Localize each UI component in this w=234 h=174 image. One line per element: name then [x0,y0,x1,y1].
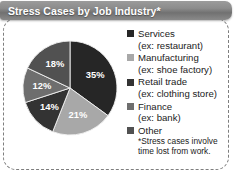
legend-sublabel-manufacturing: (ex: shoe factory) [138,64,231,76]
pie-slice-value-other: 18% [46,58,65,69]
legend-swatch-icon-services [127,30,134,37]
pie-slice-value-retail-trade: 14% [40,101,59,112]
legend-sublabel-services: (ex: restaurant) [138,40,231,52]
legend-sublabel-finance: (ex: bank) [138,112,231,124]
chart-footnote: *Stress cases involve time lost from wor… [138,136,232,157]
legend-sublabel-retail-trade: (ex: clothing store) [138,88,231,100]
pie-slice-value-services: 35% [86,69,105,80]
legend-swatch-icon-finance [127,103,134,110]
pie-slice-value-manufacturing: 21% [68,109,87,120]
legend-label-services: Services [138,28,175,40]
legend-item-finance: Finance (ex: bank) [127,101,231,124]
legend-swatch-icon-other [127,127,134,134]
chart-legend: Services (ex: restaurant) Manufacturing … [127,28,231,137]
page-title: Stress Cases by Job Industry* [0,5,161,17]
legend-item-retail-trade: Retail trade (ex: clothing store) [127,76,231,99]
legend-swatch-icon-manufacturing [127,54,134,61]
footnote-line-2: time lost from work. [138,146,232,156]
pie-chart: 35%21%14%12%18% [14,26,122,144]
pie-chart-svg: 35%21%14%12%18% [14,26,122,144]
chart-title-bar: Stress Cases by Job Industry* [0,1,232,20]
stress-cases-pie-figure: Stress Cases by Job Industry* 35%21%14%1… [0,0,234,174]
footnote-line-1: *Stress cases involve [138,136,232,146]
legend-item-other: Other [127,125,231,137]
legend-item-manufacturing: Manufacturing (ex: shoe factory) [127,52,231,75]
legend-label-finance: Finance [138,101,172,113]
legend-label-other: Other [138,125,162,137]
legend-label-retail-trade: Retail trade [138,76,187,88]
legend-swatch-icon-retail-trade [127,79,134,86]
legend-item-services: Services (ex: restaurant) [127,28,231,51]
pie-slice-value-finance: 12% [32,80,51,91]
legend-label-manufacturing: Manufacturing [138,52,199,64]
